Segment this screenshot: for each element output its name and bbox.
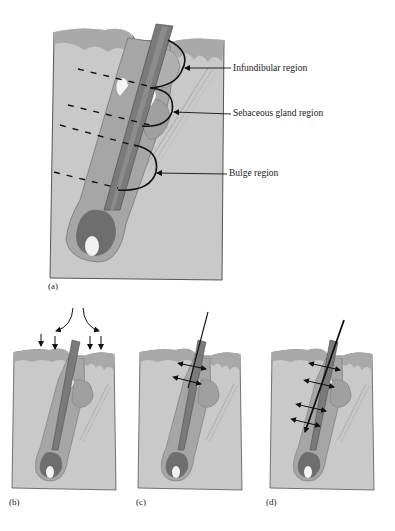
panel-b-arrows (41, 308, 101, 349)
panel-b-diagram (12, 340, 116, 490)
hair-follicle-figure (0, 0, 395, 531)
sebaceous-gland-region-label: Sebaceous gland region (233, 109, 323, 119)
bulge-region-label: Bulge region (229, 169, 278, 179)
infundibular-region-label: Infundibular region (233, 64, 307, 74)
panel-d-diagram (270, 340, 374, 490)
panel-a-diagram (50, 24, 231, 280)
panel-a-label: (a) (48, 282, 58, 291)
panel-b-label: (b) (9, 498, 20, 507)
panel-c-diagram (138, 340, 242, 490)
panel-c-label: (c) (136, 498, 146, 507)
panel-d-label: (d) (266, 498, 277, 507)
